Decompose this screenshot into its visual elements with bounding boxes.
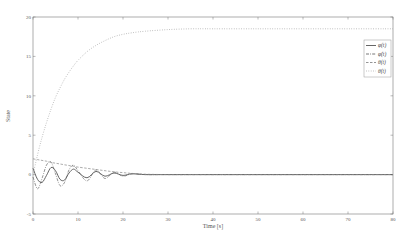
legend-label: φ(t) [378, 42, 386, 49]
y-tick-label: 10 [26, 94, 32, 99]
x-tick-label: 30 [166, 217, 172, 222]
x-tick-label: 40 [211, 217, 217, 222]
x-tick-label: 80 [391, 217, 397, 222]
y-tick-label: 20 [26, 15, 32, 20]
legend-label: θ̇(t) [378, 68, 386, 75]
y-axis-label: State [5, 110, 11, 122]
x-axis-label: Time [s] [203, 223, 223, 230]
y-tick-label: -5 [27, 212, 32, 217]
y-tick-label: 15 [26, 54, 32, 59]
y-tick-label: 5 [29, 133, 32, 138]
legend-label: φ̇(t) [378, 51, 386, 58]
x-tick-label: 50 [256, 217, 262, 222]
legend: φ(t)φ̇(t)θ(t)θ̇(t) [364, 40, 391, 77]
plot-area [33, 17, 393, 214]
x-tick-label: 60 [301, 217, 307, 222]
x-tick-label: 20 [121, 217, 127, 222]
x-tick-label: 0 [32, 217, 35, 222]
x-tick-label: 10 [76, 217, 82, 222]
y-tick-label: 0 [29, 172, 32, 177]
legend-label: θ(t) [378, 59, 386, 66]
line-chart: 01020304050607080-505101520 Time [s] Sta… [0, 0, 414, 237]
x-tick-label: 70 [346, 217, 352, 222]
